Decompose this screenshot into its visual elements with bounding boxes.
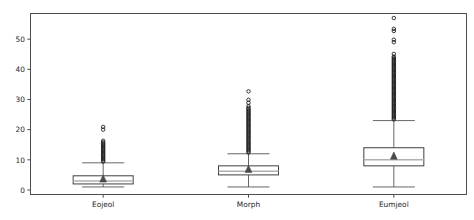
y-tick-label: 30	[16, 95, 26, 104]
boxplot-figure: 01020304050EojeolMorphEumjeol	[0, 0, 474, 220]
y-tick-label: 40	[16, 65, 26, 74]
boxplot-canvas: 01020304050EojeolMorphEumjeol	[0, 0, 474, 220]
y-tick-label: 20	[16, 125, 26, 134]
x-tick-label: Eojeol	[92, 200, 114, 209]
y-tick-label: 0	[20, 186, 25, 195]
y-tick-label: 50	[16, 35, 26, 44]
x-tick-label: Eumjeol	[379, 200, 409, 209]
y-tick-label: 10	[16, 156, 26, 165]
x-tick-label: Morph	[237, 200, 261, 209]
